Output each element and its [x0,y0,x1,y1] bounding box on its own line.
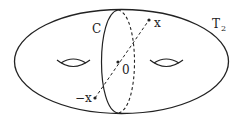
point-origin [116,60,119,63]
genus-two-surface-diagram: C x 0 −x T 2 [0,0,245,123]
right-hole [150,59,183,67]
point-x [147,18,150,21]
curve-c-label: C [92,22,101,36]
point-neg-x [93,96,96,99]
antipodal-line [95,20,149,98]
point-x-label: x [154,16,161,30]
curve-c-front [102,10,119,113]
surface-label-subscript: 2 [221,24,226,33]
point-neg-x-label: −x [75,91,92,105]
surface-outline [15,10,229,114]
diagram-svg: C x 0 −x T 2 [0,0,245,123]
point-origin-label: 0 [122,63,130,77]
left-hole [57,59,90,67]
surface-label: T [212,17,220,31]
